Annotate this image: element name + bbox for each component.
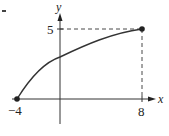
point-end: [139, 26, 145, 32]
x-tick-label-8: 8: [138, 104, 145, 119]
x-axis-arrow-icon: [148, 97, 156, 102]
y-tick-label-5: 5: [47, 22, 54, 37]
function-graph: y x 5 −4 8: [0, 0, 169, 136]
x-tick-label-min: −4: [8, 103, 22, 118]
x-axis-label: x: [157, 92, 164, 106]
bullet-mark: [2, 10, 6, 12]
curve: [17, 29, 142, 99]
y-axis-label: y: [55, 0, 62, 14]
y-axis-arrow-icon: [58, 13, 63, 21]
point-start: [14, 96, 20, 102]
